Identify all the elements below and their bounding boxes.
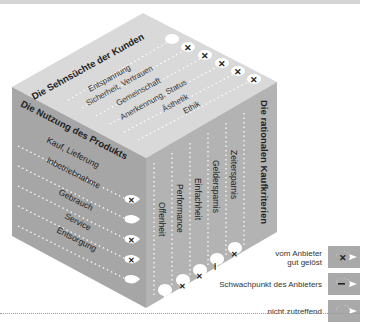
svg-text:✕: ✕	[196, 272, 203, 281]
legend-swatch: ✕	[328, 246, 360, 268]
check-x-icon: ✕	[339, 253, 347, 263]
svg-text:|: |	[214, 261, 216, 270]
check-x-icon: ✕	[193, 264, 207, 283]
not-applicable-marker	[158, 284, 172, 303]
not-applicable-marker	[165, 34, 179, 44]
right-item-label: Zeitersparnis	[229, 150, 239, 199]
bottom-divider	[0, 313, 360, 314]
svg-text:✕: ✕	[128, 196, 135, 205]
legend-item-solved: vom Anbieter gut gelöst ✕	[240, 246, 368, 270]
svg-text:✕: ✕	[184, 43, 192, 53]
legend-label: Schwachpunkt des Anbieters	[219, 280, 322, 289]
legend-label: vom Anbieter	[275, 249, 322, 258]
legend-label: nicht zutreffend	[267, 307, 322, 316]
svg-text:✕: ✕	[128, 256, 135, 265]
legend-label: gut gelöst	[275, 258, 322, 267]
legend-swatch	[328, 300, 360, 322]
minus-icon	[338, 283, 345, 285]
svg-text:✕: ✕	[128, 236, 135, 245]
legend-item-weakness: Schwachpunkt des Anbieters	[240, 273, 368, 297]
svg-text:✕: ✕	[250, 75, 258, 85]
right-item-label: Einfachheit	[193, 178, 203, 221]
svg-text:✕: ✕	[231, 250, 238, 259]
svg-text:✕: ✕	[179, 282, 186, 291]
svg-text:✕: ✕	[201, 51, 209, 61]
legend-swatch	[328, 273, 360, 295]
right-item-label: Performance	[175, 184, 185, 233]
check-x-icon: ✕	[176, 274, 190, 293]
right-face-title: Die rationalen Kaufkriterien	[259, 100, 270, 224]
legend-item-not-applicable: nicht zutreffend	[240, 300, 368, 324]
svg-text:✕: ✕	[218, 59, 226, 69]
svg-text:✕: ✕	[234, 67, 242, 77]
right-item-label: Geldersparnis	[211, 160, 221, 213]
right-item-label: Offenheit	[157, 202, 167, 237]
